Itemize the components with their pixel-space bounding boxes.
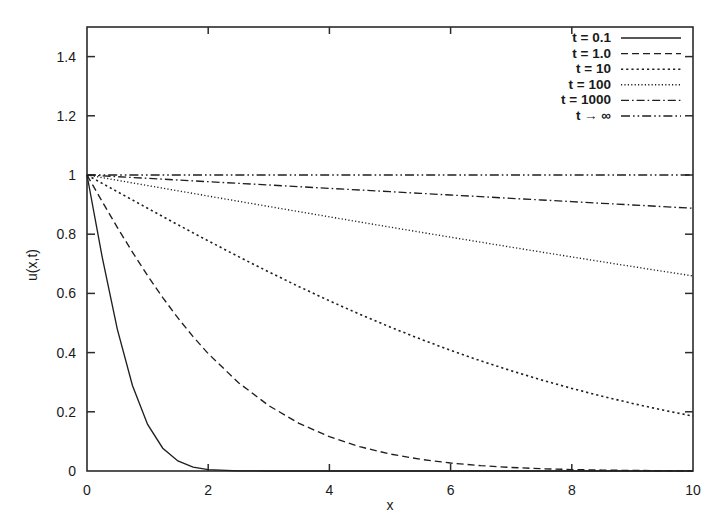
- y-tick-label: 0.2: [57, 404, 77, 420]
- chart-background: [0, 0, 723, 531]
- y-tick-label: 1: [68, 167, 76, 183]
- plot-figure: 024681000.20.40.60.811.21.4 t = 0.1t = 1…: [0, 0, 723, 531]
- x-tick-label: 10: [685, 482, 701, 498]
- x-axis-label: x: [387, 497, 394, 513]
- y-tick-label: 0.4: [57, 345, 77, 361]
- legend-label-4: t = 1000: [561, 92, 611, 107]
- legend-label-2: t = 10: [576, 61, 611, 76]
- x-tick-label: 8: [568, 482, 576, 498]
- legend-label-1: t = 1.0: [572, 46, 611, 61]
- y-tick-label: 0: [68, 463, 76, 479]
- x-tick-label: 6: [447, 482, 455, 498]
- x-tick-label: 0: [83, 482, 91, 498]
- y-tick-label: 1.4: [57, 49, 77, 65]
- legend-label-5: t → ∞: [576, 108, 611, 123]
- y-tick-label: 0.6: [57, 285, 77, 301]
- x-tick-label: 2: [204, 482, 212, 498]
- chart-canvas: 024681000.20.40.60.811.21.4 t = 0.1t = 1…: [0, 0, 723, 531]
- y-tick-label: 1.2: [57, 108, 77, 124]
- legend-label-0: t = 0.1: [572, 30, 611, 45]
- y-axis-label: u(x,t): [24, 249, 40, 281]
- y-tick-label: 0.8: [57, 226, 77, 242]
- x-tick-label: 4: [326, 482, 334, 498]
- legend-label-3: t = 100: [569, 77, 611, 92]
